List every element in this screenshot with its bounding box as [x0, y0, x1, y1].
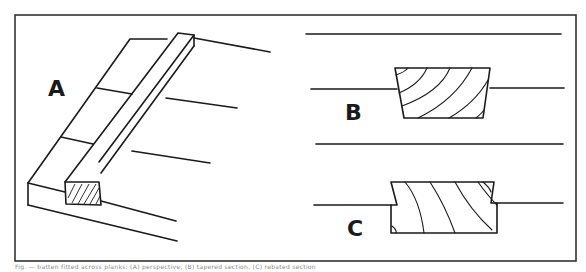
label-a: A	[48, 76, 65, 101]
hatch-pattern	[68, 184, 100, 204]
panel-c-drawing: C	[314, 144, 563, 241]
wood-grain-b	[396, 68, 488, 118]
label-c: C	[347, 216, 363, 241]
figure-caption: Fig. — batten fitted across planks: (A) …	[15, 263, 316, 270]
figure-container: A B	[0, 0, 586, 272]
wood-grain-c	[392, 182, 497, 233]
panel-a-drawing: A	[28, 33, 270, 241]
label-b: B	[345, 100, 362, 125]
panel-b-drawing: B	[306, 34, 564, 125]
diagram-svg: A B	[0, 0, 586, 272]
